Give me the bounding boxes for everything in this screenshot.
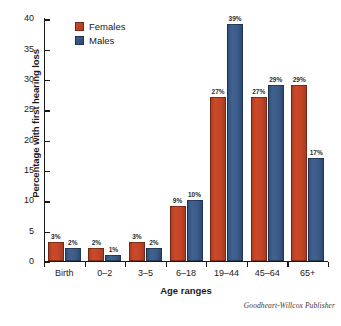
- legend-swatch-males-icon: [75, 36, 84, 45]
- bar-males-6–18[interactable]: 10%: [187, 200, 203, 261]
- bar-slot: 2%: [65, 18, 81, 261]
- bar-value-label: 3%: [132, 233, 141, 240]
- legend-swatch-females-icon: [75, 22, 84, 31]
- x-tick: [125, 262, 126, 267]
- bar-value-label: 3%: [51, 233, 60, 240]
- y-tick-label: 20: [8, 135, 34, 145]
- legend-item-males: Males: [75, 33, 125, 47]
- bar-slot: 10%: [187, 18, 203, 261]
- bar-females-19–44[interactable]: 27%: [210, 97, 226, 261]
- bar-value-label: 2%: [68, 239, 77, 246]
- x-tick: [328, 262, 329, 267]
- bar-chart-figure: Percentage with first hearing loss 05101…: [0, 0, 341, 326]
- x-tick-label: 19–44: [206, 268, 247, 278]
- bar-groups: 3%2%2%1%3%2%9%10%27%39%27%29%29%17%: [44, 18, 328, 261]
- bar-group: 27%29%: [247, 18, 288, 261]
- x-tick-label: Birth: [44, 268, 85, 278]
- x-tick-label: 45–64: [247, 268, 288, 278]
- bar-group: 29%17%: [287, 18, 328, 261]
- bar-males-19–44[interactable]: 39%: [227, 24, 243, 261]
- y-tick-label: 5: [8, 226, 34, 236]
- bar-males-0–2[interactable]: 1%: [105, 255, 121, 261]
- bar-slot: 17%: [308, 18, 324, 261]
- x-tick: [206, 262, 207, 267]
- x-axis-title: Age ranges: [44, 285, 328, 296]
- x-axis-line: [44, 261, 328, 262]
- bar-slot: 29%: [291, 18, 307, 261]
- x-tick: [287, 262, 288, 267]
- plot-area: 0510152025303540 3%2%2%1%3%2%9%10%27%39%…: [44, 18, 328, 262]
- bar-value-label: 10%: [188, 191, 201, 198]
- x-tick-label: 3–5: [125, 268, 166, 278]
- bar-males-Birth[interactable]: 2%: [65, 248, 81, 260]
- bar-slot: 27%: [210, 18, 226, 261]
- bar-value-label: 27%: [252, 88, 265, 95]
- bar-females-6–18[interactable]: 9%: [170, 206, 186, 261]
- legend-label-females: Females: [89, 21, 125, 32]
- bar-value-label: 27%: [212, 88, 225, 95]
- y-tick-label: 15: [8, 165, 34, 175]
- bar-females-65+[interactable]: 29%: [291, 85, 307, 261]
- bar-group: 3%2%: [125, 18, 166, 261]
- bar-females-3–5[interactable]: 3%: [129, 242, 145, 260]
- y-tick: [45, 262, 50, 263]
- x-tick: [44, 262, 45, 267]
- x-tick: [166, 262, 167, 267]
- y-tick-label: 0: [8, 256, 34, 266]
- publisher-credit: Goodheart-Willcox Publisher: [244, 301, 335, 310]
- bar-group: 2%1%: [85, 18, 126, 261]
- bar-slot: 29%: [268, 18, 284, 261]
- bar-value-label: 1%: [109, 246, 118, 253]
- bar-males-65+[interactable]: 17%: [308, 158, 324, 261]
- bar-slot: 39%: [227, 18, 243, 261]
- x-axis-tick-labels: Birth0–23–56–1819–4445–6465+: [44, 268, 328, 278]
- x-tick: [85, 262, 86, 267]
- legend-label-males: Males: [89, 35, 114, 46]
- bar-value-label: 17%: [310, 149, 323, 156]
- bar-group: 3%2%: [44, 18, 85, 261]
- bar-value-label: 2%: [92, 239, 101, 246]
- bar-females-Birth[interactable]: 3%: [48, 242, 64, 260]
- y-tick-label: 25: [8, 104, 34, 114]
- bar-value-label: 29%: [293, 76, 306, 83]
- bar-slot: 1%: [105, 18, 121, 261]
- bar-males-45–64[interactable]: 29%: [268, 85, 284, 261]
- bar-value-label: 29%: [269, 76, 282, 83]
- x-tick: [247, 262, 248, 267]
- bar-value-label: 9%: [173, 197, 182, 204]
- bar-females-0–2[interactable]: 2%: [88, 248, 104, 260]
- bar-slot: 3%: [129, 18, 145, 261]
- bar-slot: 27%: [251, 18, 267, 261]
- bar-group: 9%10%: [166, 18, 207, 261]
- y-tick-label: 35: [8, 44, 34, 54]
- bar-males-3–5[interactable]: 2%: [146, 248, 162, 260]
- x-tick-label: 0–2: [85, 268, 126, 278]
- bar-slot: 3%: [48, 18, 64, 261]
- legend-item-females: Females: [75, 19, 125, 33]
- y-tick-label: 10: [8, 195, 34, 205]
- y-tick-label: 40: [8, 13, 34, 23]
- bar-slot: 2%: [146, 18, 162, 261]
- x-tick-label: 6–18: [166, 268, 207, 278]
- bar-females-45–64[interactable]: 27%: [251, 97, 267, 261]
- bar-value-label: 39%: [229, 15, 242, 22]
- bar-slot: 2%: [88, 18, 104, 261]
- bar-value-label: 2%: [149, 239, 158, 246]
- bar-slot: 9%: [170, 18, 186, 261]
- y-tick-label: 30: [8, 74, 34, 84]
- x-tick-label: 65+: [287, 268, 328, 278]
- chart-legend: Females Males: [75, 19, 125, 47]
- bar-group: 27%39%: [206, 18, 247, 261]
